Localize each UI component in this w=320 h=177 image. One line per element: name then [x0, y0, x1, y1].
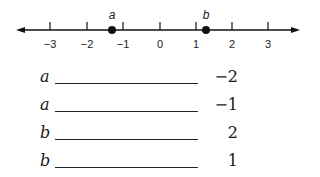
variable-label: a: [40, 95, 50, 114]
right-arrow-icon: [291, 27, 300, 33]
tick-label: −2: [81, 38, 94, 50]
match-row: b 1: [40, 150, 300, 172]
value-label: 2: [228, 123, 238, 142]
tick-label: 0: [157, 38, 163, 50]
point-b: [202, 26, 210, 34]
tick-label: −1: [117, 38, 130, 50]
answer-blank[interactable]: [55, 111, 198, 112]
value-label: −2: [214, 67, 238, 86]
variable-label: b: [40, 151, 50, 170]
match-row: a −2: [40, 66, 300, 88]
answer-blank[interactable]: [55, 167, 198, 168]
tick-label: 2: [229, 38, 235, 50]
number-line: −3−2−10123 ab: [0, 0, 320, 60]
match-row: a −1: [40, 94, 300, 116]
variable-label: b: [40, 123, 50, 142]
answer-blank[interactable]: [55, 83, 198, 84]
tick-label: 3: [265, 38, 271, 50]
left-arrow-icon: [16, 27, 25, 33]
value-label: −1: [214, 95, 238, 114]
match-row: b 2: [40, 122, 300, 144]
tick-label: −3: [44, 38, 57, 50]
point-label: a: [109, 8, 116, 22]
variable-label: a: [40, 67, 50, 86]
tick-label: 1: [193, 38, 199, 50]
answer-blank[interactable]: [55, 139, 198, 140]
point-a: [108, 26, 116, 34]
value-label: 1: [228, 151, 238, 170]
point-label: b: [203, 8, 210, 22]
